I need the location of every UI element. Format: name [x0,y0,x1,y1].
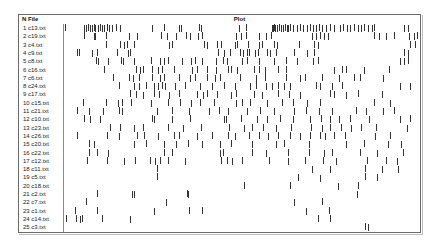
hit-tick [339,75,340,82]
hit-tick [282,99,283,106]
row-label[interactable]: 13 c23.txt [23,124,49,132]
row-label[interactable]: 3 c4.txt [23,41,42,49]
hit-tick [130,90,131,97]
hit-tick [168,157,169,164]
hit-tick [382,166,383,173]
hit-tick [259,33,260,40]
row-label[interactable]: 24 c14.txt [23,215,49,223]
hit-tick [275,25,276,32]
plot-row[interactable] [64,66,420,74]
hit-tick [247,108,248,115]
row-label[interactable]: 9 c17.txt [23,90,46,98]
hit-tick [285,24,286,31]
hit-tick [318,215,319,222]
row-label[interactable]: 6 c16.txt [23,66,46,74]
hit-tick [320,132,321,139]
row-label[interactable]: 22 c7.txt [23,198,46,206]
hit-tick [341,124,342,131]
plot-row[interactable] [64,124,420,132]
hit-tick [314,41,315,48]
plot-row[interactable] [64,149,420,157]
plot-row[interactable] [64,157,420,165]
plot-row[interactable] [64,132,420,140]
hit-tick [254,66,255,73]
hit-tick [320,83,321,90]
row-label[interactable]: 2 c19.txt [23,32,46,40]
hit-tick [231,92,232,99]
hit-tick [152,74,153,81]
hit-tick [312,33,313,40]
hit-tick [340,25,341,32]
hit-tick [167,33,168,40]
plot-row[interactable] [64,173,420,181]
hit-tick [401,141,402,148]
row-label[interactable]: 11 c21.txt [23,107,49,115]
row-label[interactable]: 4 c9.txt [23,49,42,57]
hit-tick [316,33,317,40]
plot-row[interactable] [64,99,420,107]
row-label[interactable]: 8 c24.txt [23,82,46,90]
row-label[interactable]: 14 c26.txt [23,132,49,140]
hit-tick [191,100,192,107]
hit-tick [200,83,201,90]
hit-tick [350,25,351,32]
hit-tick [198,33,199,40]
row-label[interactable]: 21 c2.txt [23,190,46,198]
hit-tick [231,66,232,73]
hit-tick [157,173,158,180]
hit-tick [190,115,191,122]
plot-row[interactable] [64,190,420,198]
plot-row[interactable] [64,82,420,90]
hit-tick [200,99,201,106]
plot-row[interactable] [64,198,420,206]
row-label[interactable]: 7 c6.txt [23,74,42,82]
plot-row[interactable] [64,182,420,190]
hit-tick [226,116,227,123]
plot-row[interactable] [64,74,420,82]
hit-tick [305,157,306,164]
row-label[interactable]: 5 c8.txt [23,57,42,65]
hit-tick [332,149,333,156]
plot-row[interactable] [64,90,420,98]
plot-row[interactable] [64,107,420,115]
row-label[interactable]: 12 c10.txt [23,115,49,123]
hit-tick [389,66,390,73]
hit-tick [365,165,366,172]
hit-tick [189,207,190,214]
plot-row[interactable] [64,215,420,223]
plot-row[interactable] [64,165,420,173]
row-label[interactable]: 15 c20.txt [23,140,49,148]
hit-tick [242,58,243,65]
row-label[interactable]: 16 c22.txt [23,149,49,157]
hit-tick [120,124,121,131]
header-plot[interactable]: Plot [19,16,420,22]
hit-tick [255,50,256,57]
row-label[interactable]: 25 c3.txt [23,223,46,231]
hit-tick [227,58,228,65]
row-label[interactable]: 17 c12.txt [23,157,49,165]
plot-row[interactable] [64,115,420,123]
hit-tick [143,66,144,73]
plot-row[interactable] [64,57,420,65]
hit-tick [117,49,118,56]
plot-row[interactable] [64,223,420,231]
hit-tick [77,107,78,114]
row-label[interactable]: 23 c1.txt [23,207,46,215]
row-label[interactable]: 1 c13.txt [23,24,46,32]
row-label[interactable]: 10 c15.txt [23,99,49,107]
hit-tick [209,108,210,115]
hit-tick [382,91,383,98]
plot-row[interactable] [64,140,420,148]
plot-row[interactable] [64,24,420,32]
hit-tick [334,91,335,98]
row-label[interactable]: 18 c11.txt [23,165,49,173]
plot-row[interactable] [64,41,420,49]
plot-row[interactable] [64,49,420,57]
row-label[interactable]: 20 c18.txt [23,182,49,190]
hit-tick [120,25,121,32]
hit-tick [195,74,196,81]
hit-tick [136,91,137,98]
plot-row[interactable] [64,32,420,40]
plot-row[interactable] [64,207,420,215]
row-label[interactable]: 19 c5.txt [23,173,46,181]
